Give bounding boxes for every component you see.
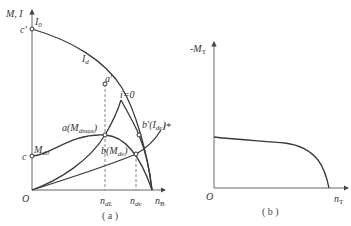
y-axis-label-a: M, I <box>5 8 23 19</box>
tick-nde: nde <box>130 195 142 208</box>
y-axis-label-b: -MT <box>190 43 207 56</box>
label-c: c <box>22 151 27 162</box>
id-current-curve <box>32 29 152 190</box>
label-a-prime: a' <box>105 73 113 84</box>
tick-nb: nB <box>155 195 165 208</box>
tick-ndl: ndL <box>100 195 113 208</box>
label-a: a(Mdmax) <box>62 122 98 135</box>
origin-a: O <box>22 193 29 204</box>
origin-b: O <box>206 191 213 202</box>
label-c-prime: c' <box>20 24 27 35</box>
diagram-a: M, I c' I0 Id a' i=0 i* Md0 c a(Mdmax) b… <box>5 8 171 222</box>
point-c-prime <box>30 27 34 31</box>
label-i0: I0 <box>34 16 42 29</box>
label-i-zero: i=0 <box>120 89 135 100</box>
caption-a: ( a ) <box>102 210 118 222</box>
caption-b: ( b ) <box>262 206 279 218</box>
diagram-canvas: M, I c' I0 Id a' i=0 i* Md0 c a(Mdmax) b… <box>0 0 351 226</box>
diagram-b: -MT O nT ( b ) <box>190 42 348 218</box>
mt-curve <box>214 137 329 188</box>
point-b-prime <box>137 133 141 137</box>
point-a <box>103 133 107 137</box>
point-b <box>134 152 138 156</box>
x-axis-label-b: nT <box>334 193 344 206</box>
